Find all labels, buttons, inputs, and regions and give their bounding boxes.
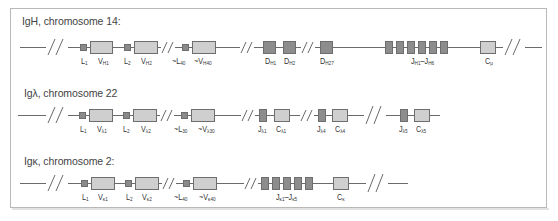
label-vk40: ~Vκ40 (199, 192, 216, 202)
break-icon (244, 178, 258, 189)
v-segment-vk40 (193, 177, 217, 190)
label-l1: L1 (82, 192, 89, 202)
j-segment-jk5 (305, 177, 313, 190)
break-icon (160, 110, 174, 121)
j-segment-jl4 (318, 109, 326, 122)
break-icon (46, 39, 68, 55)
label-l2: L2 (124, 56, 131, 66)
label-vk1: Vκ1 (98, 192, 108, 202)
label-vk2: Vκ2 (142, 192, 152, 202)
j-segment-jh4 (418, 41, 426, 54)
label-l40: ~L40 (174, 192, 187, 202)
break-icon (241, 110, 255, 121)
leader-segment-l2 (124, 44, 131, 51)
j-segment-jl1 (259, 109, 267, 122)
break-icon (162, 178, 176, 189)
locus-title-iglambda: Igλ, chromosome 22 (24, 87, 117, 99)
j-segment-jh1 (385, 41, 393, 54)
label-vl30: ~Vλ30 (198, 124, 215, 134)
label-dh2: DH2 (284, 56, 295, 66)
j-segment-jh3 (407, 41, 415, 54)
locus-title-igh: IgH, chromosome 14: (22, 15, 120, 27)
break-icon (46, 107, 68, 123)
label-vh40: ~VH40 (194, 56, 212, 66)
c-segment-cl4 (332, 109, 348, 122)
label-vl1: Vλ1 (97, 124, 107, 134)
leader-segment-l40 (183, 180, 190, 187)
label-jl1: Jλ1 (258, 124, 267, 134)
leader-segment-l1 (80, 44, 87, 51)
v-segment-vl2 (133, 109, 157, 122)
j-segment-jk4 (294, 177, 302, 190)
v-segment-vl30 (191, 109, 215, 122)
break-icon (46, 175, 68, 191)
label-cl4: Cλ4 (335, 124, 345, 134)
v-segment-vl1 (89, 109, 113, 122)
j-segment-jk1 (261, 177, 269, 190)
v-segment-vk1 (91, 177, 115, 190)
j-segment-jh2 (396, 41, 404, 54)
v-segment-vk2 (135, 177, 159, 190)
c-segment-cmu (480, 41, 496, 54)
break-icon (161, 42, 175, 53)
label-cmu: Cμ (485, 56, 493, 66)
label-jl4: Jλ4 (317, 124, 326, 134)
label-jh1-jh6: JH1–JH6 (411, 56, 434, 66)
label-jk1-jk5: Jκ1–Jκ5 (276, 192, 297, 202)
d-segment-dh1 (263, 41, 276, 54)
label-vh1: VH1 (98, 56, 109, 66)
label-vl2: Vλ2 (141, 124, 151, 134)
label-l40: ~L40 (172, 56, 185, 66)
break-icon (503, 39, 525, 55)
leader-segment-l1 (81, 180, 88, 187)
label-cl1: Cλ1 (276, 124, 286, 134)
label-jl5: Jλ5 (399, 124, 408, 134)
label-l2: L2 (123, 124, 130, 134)
d-segment-dh27 (320, 41, 333, 54)
v-segment-vh2 (134, 41, 158, 54)
label-vh2: VH2 (141, 56, 152, 66)
leader-segment-l2 (125, 180, 132, 187)
break-icon (300, 110, 314, 121)
label-dh27: DH27 (320, 56, 334, 66)
j-segment-jl5 (400, 109, 408, 122)
label-cl5: Cλ5 (416, 124, 426, 134)
j-segment-jk2 (272, 177, 280, 190)
label-dh1: DH1 (265, 56, 276, 66)
j-segment-jh5 (429, 41, 437, 54)
j-segment-jk3 (283, 177, 291, 190)
label-l1: L1 (81, 56, 88, 66)
locus-title-igkappa: Igκ, chromosome 2: (24, 155, 114, 167)
label-l30: ~L30 (174, 124, 187, 134)
break-icon (301, 42, 315, 53)
c-segment-ck (333, 177, 349, 190)
label-ck: Cκ (337, 192, 345, 202)
v-segment-vh40 (192, 41, 216, 54)
label-l2: L2 (126, 192, 133, 202)
leader-segment-l2 (123, 112, 130, 119)
leader-segment-l1 (79, 112, 86, 119)
break-icon (366, 174, 388, 192)
frame-shadow (12, 208, 549, 210)
j-segment-jh6 (440, 41, 448, 54)
v-segment-vh1 (90, 41, 113, 54)
c-segment-cl5 (414, 109, 430, 122)
d-segment-dh2 (283, 41, 296, 54)
label-l1: L1 (80, 124, 87, 134)
leader-segment-l40 (182, 44, 189, 51)
leader-segment-l30 (181, 112, 188, 119)
break-icon (364, 106, 386, 124)
break-icon (240, 42, 254, 53)
c-segment-cl1 (274, 109, 290, 122)
